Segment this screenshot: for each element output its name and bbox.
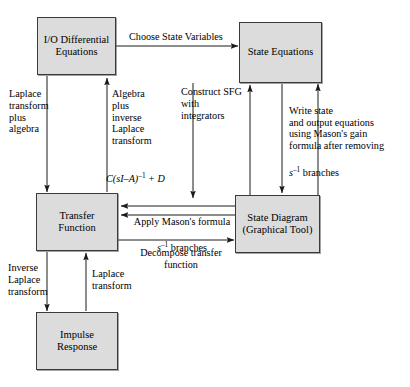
- write-state-output-rest: branches: [300, 167, 339, 178]
- edge-label-inverse-laplace-transform: Inverse Laplace transform: [8, 262, 68, 297]
- edge-label-construct-sfg: Construct SFG with integrators: [181, 86, 273, 121]
- edge-label-laplace-plus-algebra: Laplace transform plus algebra: [9, 88, 69, 135]
- edge-label-transfer-formula: C(sI–A)–1 + D: [106, 158, 196, 185]
- node-io-differential-equations-label: I/O Differential Equations: [38, 34, 115, 59]
- node-transfer-function-label: Transfer Function: [37, 210, 117, 235]
- node-state-equations-label: State Equations: [245, 46, 317, 58]
- node-state-diagram-label: State Diagram (Graphical Tool): [236, 212, 319, 237]
- edge-label-algebra-plus-inverse-laplace: Algebra plus inverse Laplace transform: [112, 88, 176, 147]
- node-state-diagram[interactable]: State Diagram (Graphical Tool): [235, 195, 320, 253]
- transfer-formula-exponent: –1: [138, 171, 145, 180]
- node-io-differential-equations[interactable]: I/O Differential Equations: [37, 17, 116, 75]
- node-impulse-response-label: Impulse Response: [37, 329, 117, 354]
- node-impulse-response[interactable]: Impulse Response: [36, 312, 118, 370]
- write-state-output-main: Write state and output equations using M…: [289, 105, 384, 151]
- node-transfer-function[interactable]: Transfer Function: [36, 193, 118, 251]
- node-state-equations[interactable]: State Equations: [239, 22, 322, 83]
- apply-masons-line1: Apply Mason's formula: [134, 216, 230, 227]
- edge-label-choose-state-variables: Choose State Variables: [129, 31, 241, 43]
- block-diagram-canvas: I/O Differential Equations State Equatio…: [0, 0, 410, 387]
- transfer-formula-prefix: C(sI–A): [106, 173, 138, 184]
- edge-label-write-state-output: Write state and output equations using M…: [289, 93, 409, 179]
- edge-label-laplace-transform: Laplace transform: [92, 268, 154, 292]
- transfer-formula-suffix: + D: [146, 173, 165, 184]
